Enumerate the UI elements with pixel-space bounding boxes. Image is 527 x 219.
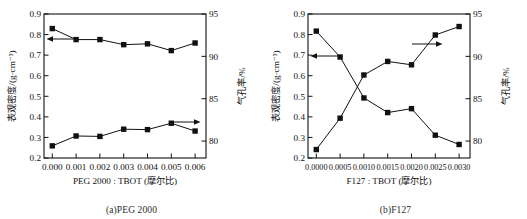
- chart-b-y2label: 气孔率/%: [500, 67, 511, 105]
- chart-a-ytick-7: 0.9: [30, 9, 42, 19]
- chart-b-ytick-2: 0.4: [294, 112, 306, 122]
- chart-b-ytick-5: 0.7: [294, 50, 306, 60]
- chart-a-xtick-6: 0.006: [185, 162, 206, 172]
- chart-b-y2tick-1: 85: [473, 94, 483, 104]
- chart-a-ylabel: 表观密度/(g·cm⁻³): [6, 50, 17, 121]
- chart-a-ytick-4: 0.6: [30, 71, 42, 81]
- chart-a-xtick-0: 0.000: [42, 162, 63, 172]
- chart-b-xtick-6: 0.0030: [448, 163, 471, 172]
- chart-a-yaxis-left: 0.2 0.3 0.4 0.5 0.6 0.7 0.8 0.9: [30, 9, 49, 163]
- figure-container: 0.2 0.3 0.4 0.5 0.6 0.7 0.8 0.9 80 85 90…: [0, 0, 527, 219]
- chart-a-arrow-right-icon: [172, 119, 201, 124]
- chart-b-yaxis-left: 0.2 0.3 0.4 0.5 0.6 0.7 0.8 0.9: [294, 9, 313, 163]
- chart-a-ytick-5: 0.7: [30, 50, 42, 60]
- chart-b-xtick-1: 0.0005: [329, 163, 352, 172]
- chart-b-plot-frame: [308, 14, 470, 158]
- chart-b-arrow-right-icon: [412, 41, 443, 46]
- chart-a-series-porosity: [50, 26, 198, 53]
- chart-b-y2tick-3: 95: [473, 9, 483, 19]
- chart-a-xtick-5: 0.005: [161, 162, 182, 172]
- chart-a-svg: 0.2 0.3 0.4 0.5 0.6 0.7 0.8 0.9 80 85 90…: [0, 0, 263, 200]
- chart-b-ytick-1: 0.3: [294, 133, 306, 143]
- chart-a-ytick-2: 0.4: [30, 112, 42, 122]
- chart-b-xtick-3: 0.0015: [376, 163, 399, 172]
- chart-b-ytick-6: 0.8: [294, 30, 306, 40]
- chart-a-y2label: 气孔率/%: [236, 67, 247, 105]
- chart-b-xaxis: 0.0000 0.0005 0.0010 0.0015 0.0020 0.002…: [305, 154, 470, 172]
- chart-a-xlabel: PEG 2000 : TBOT (摩尔比): [73, 175, 177, 186]
- chart-a-xtick-4: 0.004: [137, 162, 158, 172]
- chart-b-xtick-0: 0.0000: [305, 163, 328, 172]
- chart-a-xtick-3: 0.003: [113, 162, 134, 172]
- chart-a-y2tick-0: 80: [209, 136, 219, 146]
- chart-a-ytick-1: 0.3: [30, 133, 42, 143]
- chart-b-ytick-3: 0.5: [294, 92, 306, 102]
- chart-b-ytick-4: 0.6: [294, 71, 306, 81]
- chart-a-ytick-6: 0.8: [30, 30, 42, 40]
- chart-b-y2tick-0: 80: [473, 136, 483, 146]
- chart-b-svg: 0.2 0.3 0.4 0.5 0.6 0.7 0.8 0.9 80 85 90…: [264, 0, 527, 200]
- chart-a-ytick-3: 0.5: [30, 92, 42, 102]
- chart-a-caption: (a)PEG 2000: [0, 205, 263, 215]
- chart-b-y2tick-2: 90: [473, 52, 483, 62]
- chart-b-ylabel: 表观密度/(g·cm⁻³): [270, 50, 281, 121]
- chart-b-xlabel: F127 : TBOT (摩尔比): [346, 175, 431, 186]
- chart-a-xaxis: 0.000 0.001 0.002 0.003 0.004 0.005 0.00…: [42, 154, 206, 172]
- chart-b-caption: (b)F127: [264, 205, 527, 215]
- chart-a-ytick-0: 0.2: [30, 153, 42, 163]
- chart-b-xtick-4: 0.0020: [400, 163, 423, 172]
- chart-b-xtick-2: 0.0010: [353, 163, 376, 172]
- chart-b-ytick-7: 0.9: [294, 9, 306, 19]
- chart-a-series-density: [50, 121, 198, 149]
- chart-a-xtick-1: 0.001: [66, 162, 87, 172]
- chart-b-ytick-0: 0.2: [294, 153, 306, 163]
- chart-panel-b: 0.2 0.3 0.4 0.5 0.6 0.7 0.8 0.9 80 85 90…: [264, 0, 527, 219]
- chart-a-yaxis-right: 80 85 90 95: [202, 9, 219, 146]
- chart-a-y2tick-3: 95: [209, 9, 219, 19]
- chart-b-xtick-5: 0.0025: [424, 163, 447, 172]
- chart-b-arrow-left-icon: [311, 53, 341, 58]
- chart-b-series-density: [314, 28, 462, 147]
- chart-a-y2tick-2: 90: [209, 52, 219, 62]
- chart-panel-a: 0.2 0.3 0.4 0.5 0.6 0.7 0.8 0.9 80 85 90…: [0, 0, 263, 219]
- chart-a-y2tick-1: 85: [209, 94, 219, 104]
- chart-b-yaxis-right: 80 85 90 95: [466, 9, 483, 146]
- chart-a-xtick-2: 0.002: [90, 162, 111, 172]
